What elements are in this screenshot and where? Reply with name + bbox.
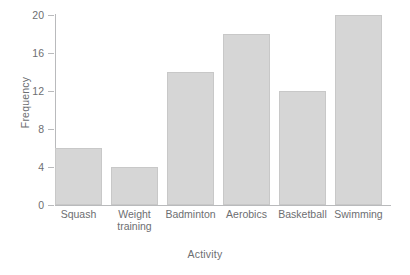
- y-tick-label: 4: [18, 162, 44, 173]
- x-category-label: Aerobics: [217, 209, 276, 221]
- y-tick-label: 12: [18, 86, 44, 97]
- x-category-label: Squash: [49, 209, 108, 221]
- y-tick-mark: [48, 205, 54, 206]
- y-tick-mark: [48, 53, 54, 54]
- bar: [167, 72, 214, 205]
- y-tick-label: 8: [18, 124, 44, 135]
- y-tick-mark: [48, 91, 54, 92]
- y-tick-label: 0: [18, 200, 44, 211]
- y-tick-label: 16: [18, 48, 44, 59]
- bar-chart: Frequency 048121620 SquashWeight trainin…: [0, 0, 410, 275]
- y-tick-mark: [48, 129, 54, 130]
- y-axis-title: Frequency: [14, 0, 36, 205]
- bar: [335, 15, 382, 205]
- y-tick-label: 20: [18, 10, 44, 21]
- bar: [111, 167, 158, 205]
- bar: [223, 34, 270, 205]
- bar: [55, 148, 102, 205]
- bar: [279, 91, 326, 205]
- y-tick-mark: [48, 167, 54, 168]
- x-category-label: Weight training: [105, 209, 164, 232]
- x-category-label: Badminton: [161, 209, 220, 221]
- x-axis-title: Activity: [0, 248, 410, 260]
- x-category-label: Basketball: [273, 209, 332, 221]
- x-category-label: Swimming: [329, 209, 388, 221]
- x-axis-line: [55, 205, 391, 206]
- y-tick-mark: [48, 15, 54, 16]
